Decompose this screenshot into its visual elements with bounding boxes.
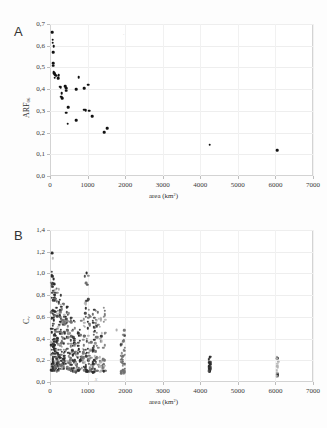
panel-b-x-axis-title: area (km2): [0, 398, 327, 406]
data-point: [52, 283, 55, 286]
gridline-vertical: [125, 24, 126, 176]
x-tick-label: 7000: [306, 181, 320, 189]
data-point: [52, 64, 55, 67]
gridline-horizontal: [50, 252, 313, 253]
data-point: [75, 88, 78, 91]
x-tick-mark: [50, 176, 51, 179]
y-tick-mark: [47, 230, 50, 231]
data-point: [53, 77, 56, 80]
data-point: [51, 31, 54, 34]
gridline-horizontal: [50, 339, 313, 340]
x-tick-mark: [313, 176, 314, 179]
y-tick-label: 0,6: [36, 42, 45, 50]
x-tick-mark: [238, 176, 239, 179]
y-tick-mark: [47, 133, 50, 134]
x-tick-label: 5000: [231, 387, 245, 395]
gridline-horizontal: [50, 24, 313, 25]
gridline-vertical: [313, 24, 314, 176]
y-tick-mark: [47, 24, 50, 25]
y-tick-label: 0,4: [36, 335, 45, 343]
gridline-vertical: [238, 230, 239, 382]
x-tick-label: 1000: [81, 387, 95, 395]
x-tick-mark: [163, 176, 164, 179]
x-tick-label: 6000: [268, 387, 282, 395]
data-point: [65, 111, 68, 114]
x-tick-mark: [163, 382, 164, 385]
gridline-horizontal: [50, 67, 313, 68]
gridline-vertical: [275, 24, 276, 176]
x-tick-label: 0: [48, 387, 52, 395]
x-tick-mark: [275, 382, 276, 385]
x-tick-mark: [125, 382, 126, 385]
x-tick-mark: [88, 176, 89, 179]
data-point: [60, 92, 63, 95]
y-tick-mark: [47, 252, 50, 253]
y-tick-mark: [47, 67, 50, 68]
y-tick-mark: [47, 273, 50, 274]
y-tick-mark: [47, 295, 50, 296]
x-tick-mark: [238, 382, 239, 385]
y-tick-label: 1,2: [36, 248, 45, 256]
y-tick-mark: [47, 360, 50, 361]
y-tick-label: 0,2: [36, 129, 45, 137]
data-point: [83, 87, 86, 90]
gridline-vertical: [200, 230, 201, 382]
y-tick-label: 1,0: [36, 269, 45, 277]
x-tick-mark: [313, 382, 314, 385]
data-point: [65, 90, 68, 93]
x-tick-mark: [88, 382, 89, 385]
data-point: [67, 106, 70, 109]
x-tick-label: 3000: [156, 387, 170, 395]
x-tick-mark: [125, 176, 126, 179]
data-point: [60, 86, 63, 89]
data-point: [106, 127, 109, 130]
y-tick-label: 0,0: [36, 378, 45, 386]
y-tick-mark: [47, 154, 50, 155]
gridline-horizontal: [50, 295, 313, 296]
x-tick-label: 1000: [81, 181, 95, 189]
data-point: [66, 123, 69, 126]
gridline-horizontal: [50, 273, 313, 274]
panel-a-y-axis-title: ARF06: [22, 97, 31, 118]
data-point: [51, 251, 54, 254]
x-tick-mark: [275, 176, 276, 179]
x-tick-mark: [200, 176, 201, 179]
data-point: [61, 97, 64, 100]
data-point: [52, 45, 55, 48]
data-point: [52, 51, 55, 54]
x-tick-label: 4000: [193, 181, 207, 189]
gridline-vertical: [313, 230, 314, 382]
panel-a-x-axis-title: area (km2): [0, 192, 327, 200]
y-tick-label: 1,4: [36, 226, 45, 234]
y-tick-label: 0,3: [36, 107, 45, 115]
panel-a-letter: A: [14, 24, 23, 39]
y-tick-label: 0,0: [36, 172, 45, 180]
data-point: [88, 109, 91, 112]
x-tick-label: 3000: [156, 181, 170, 189]
x-tick-label: 6000: [268, 181, 282, 189]
panel-a: A 0,00,10,20,30,40,50,60,7 0100020003000…: [0, 0, 327, 214]
y-tick-mark: [47, 111, 50, 112]
y-tick-mark: [47, 46, 50, 47]
data-point: [55, 287, 58, 290]
y-tick-label: 0,5: [36, 63, 45, 71]
data-point: [77, 76, 80, 79]
gridline-horizontal: [50, 89, 313, 90]
data-point: [115, 328, 118, 331]
data-point: [75, 119, 78, 122]
data-point: [276, 149, 279, 152]
panel-b-letter: B: [14, 228, 23, 243]
data-point: [84, 109, 87, 112]
data-point: [84, 282, 87, 285]
y-tick-mark: [47, 89, 50, 90]
artifact-mark: ·: [122, 31, 124, 39]
data-point: [91, 115, 94, 118]
x-tick-label: 7000: [306, 387, 320, 395]
gridline-horizontal: [50, 46, 313, 47]
x-tick-label: 0: [48, 181, 52, 189]
gridline-horizontal: [50, 154, 313, 155]
panel-b: B 0,00,20,40,60,81,01,21,4 0100020003000…: [0, 214, 327, 428]
y-tick-label: 0,4: [36, 85, 45, 93]
gridline-vertical: [163, 230, 164, 382]
y-tick-mark: [47, 339, 50, 340]
